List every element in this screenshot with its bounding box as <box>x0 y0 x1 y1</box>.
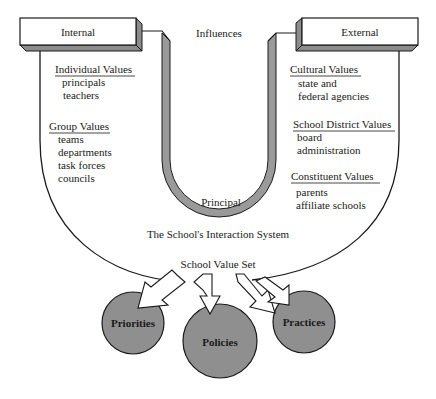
external-item: board <box>297 131 323 143</box>
external-item: federal agencies <box>298 90 369 102</box>
external-title: External <box>341 26 378 38</box>
internal-title: Internal <box>61 26 95 38</box>
internal-box: Internal <box>20 18 142 51</box>
external-item: affiliate schools <box>296 199 366 211</box>
internal-item: task forces <box>58 159 105 171</box>
external-box: External <box>296 18 418 51</box>
internal-item: principals <box>62 76 105 88</box>
external-item: parents <box>296 186 328 198</box>
constituent-values-heading: Constituent Values <box>291 170 374 182</box>
cultural-values-heading: Cultural Values <box>290 63 358 75</box>
school-district-values-heading: School District Values <box>293 118 391 130</box>
individual-values-heading: Individual Values <box>55 63 132 75</box>
priorities-label: Priorities <box>111 317 156 329</box>
policies-label: Policies <box>202 336 238 348</box>
influence-u-tube <box>142 31 296 217</box>
internal-item: teams <box>58 133 84 145</box>
external-values-list: Cultural Values state and federal agenci… <box>290 63 395 211</box>
practices-label: Practices <box>283 316 326 328</box>
output-arrows <box>138 270 289 314</box>
internal-item: councils <box>58 172 95 184</box>
output-circles: Priorities Policies Practices <box>102 291 335 378</box>
group-values-heading: Group Values <box>49 120 109 132</box>
external-item: state and <box>298 77 337 89</box>
external-item: administration <box>297 144 361 156</box>
influences-label: Influences <box>196 27 242 39</box>
internal-values-list: Individual Values principals teachers Gr… <box>49 63 135 184</box>
value-set-label: School Value Set <box>181 258 256 270</box>
school-value-diagram: Internal External Influences Individual … <box>0 0 436 399</box>
internal-item: teachers <box>63 89 99 101</box>
internal-item: departments <box>58 146 112 158</box>
interaction-system-label: The School's Interaction System <box>147 228 290 240</box>
principal-label: Principal <box>201 196 241 208</box>
